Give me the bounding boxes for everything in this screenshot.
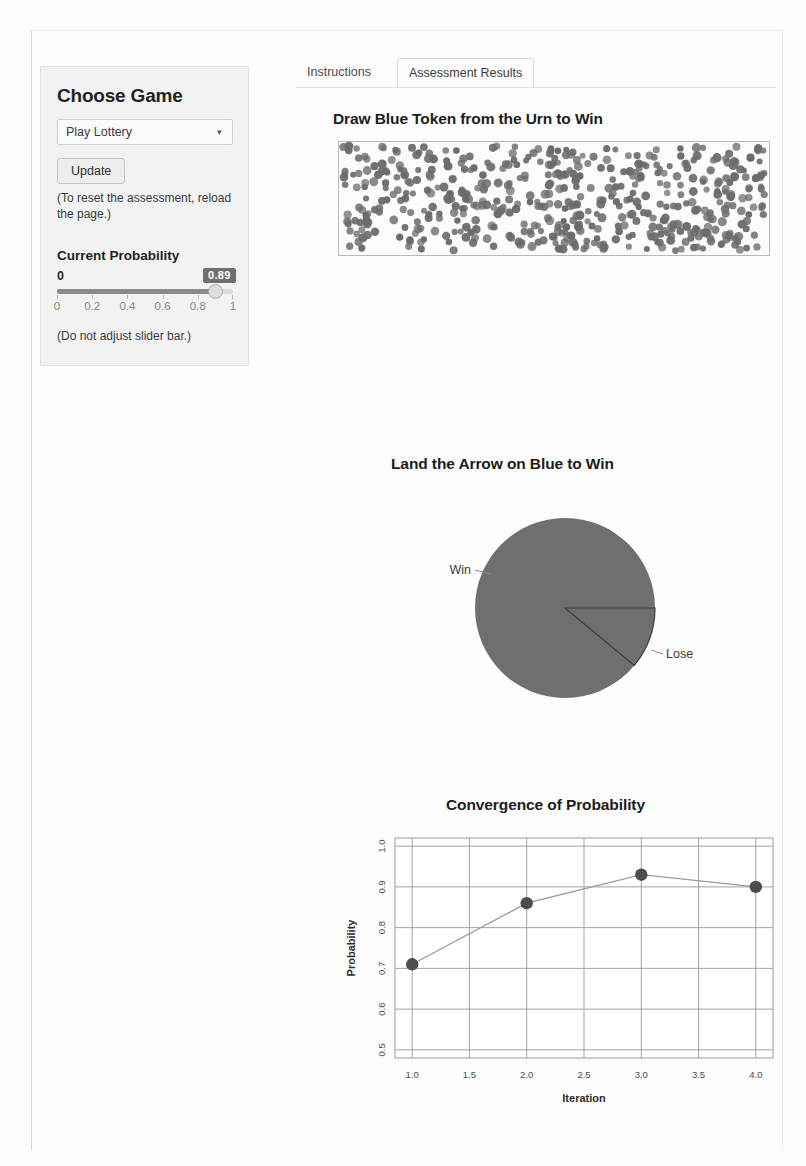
urn-token — [750, 203, 758, 211]
urn-token — [633, 198, 642, 207]
tab-bar: Instructions Assessment Results — [296, 58, 776, 88]
urn-token — [545, 181, 553, 189]
win-label: Win — [449, 563, 471, 577]
slider-note: (Do not adjust slider bar.) — [57, 329, 191, 343]
convergence-chart: 0.50.60.70.80.91.01.01.52.02.53.03.54.0I… — [268, 820, 788, 1120]
urn-token — [743, 245, 750, 252]
urn-token — [650, 214, 657, 221]
lose-leader-line — [651, 650, 663, 654]
urn-token — [753, 243, 760, 250]
urn-title: Draw Blue Token from the Urn to Win — [333, 110, 603, 128]
urn-token — [565, 198, 573, 206]
urn-token — [711, 226, 719, 234]
urn-token — [392, 147, 398, 153]
urn-token — [760, 211, 767, 218]
urn-token — [341, 171, 348, 178]
urn-token — [734, 232, 743, 241]
slider-track[interactable] — [57, 289, 233, 294]
urn-token — [371, 162, 379, 170]
urn-token — [746, 154, 754, 162]
urn-token — [512, 144, 518, 150]
urn-token — [757, 158, 763, 164]
urn-token — [561, 171, 567, 177]
game-select[interactable]: Play Lottery ▾ — [57, 119, 233, 145]
urn-token — [745, 184, 753, 192]
urn-token — [664, 190, 670, 196]
urn-token — [521, 221, 528, 228]
urn-token — [516, 240, 525, 249]
urn-token — [408, 144, 416, 152]
urn-token — [589, 223, 596, 230]
urn-token — [545, 216, 554, 225]
slider-tick-mark — [232, 295, 233, 299]
urn-token — [369, 177, 378, 186]
urn-token — [653, 162, 660, 169]
probability-slider[interactable]: 0 0.89 00.20.40.60.81 — [57, 269, 233, 311]
urn-token — [576, 220, 583, 227]
app-page: Choose Game Play Lottery ▾ Update (To re… — [0, 0, 806, 1166]
urn-token — [505, 195, 513, 203]
urn-token — [687, 229, 694, 236]
urn-token — [490, 243, 497, 250]
urn-token — [407, 236, 413, 242]
urn-token — [461, 166, 468, 173]
urn-token — [598, 213, 607, 222]
urn-token — [436, 215, 443, 222]
x-tick-label: 2.5 — [577, 1069, 590, 1080]
urn-token — [400, 206, 407, 213]
urn-token — [389, 216, 398, 225]
urn-token — [605, 184, 614, 193]
urn-token — [493, 209, 502, 218]
urn-token — [471, 234, 479, 242]
urn-token — [732, 143, 740, 151]
urn-token — [479, 171, 487, 179]
urn-token — [618, 183, 625, 190]
current-probability-label: Current Probability — [57, 248, 232, 263]
urn-token — [425, 214, 433, 222]
tab-underline — [296, 87, 776, 88]
urn-token — [459, 155, 467, 163]
urn-token — [494, 178, 503, 187]
urn-token — [535, 223, 541, 229]
urn-token — [363, 155, 370, 162]
data-point-marker — [635, 869, 647, 881]
urn-token — [555, 147, 562, 154]
urn-token — [464, 190, 470, 196]
urn-token — [471, 216, 480, 225]
urn-token — [468, 167, 474, 173]
spinner-title: Land the Arrow on Blue to Win — [391, 455, 614, 473]
slider-value-bubble: 0.89 — [203, 268, 236, 283]
urn-token — [613, 198, 620, 205]
urn-token — [363, 215, 370, 222]
urn-token — [603, 155, 612, 164]
tab-assessment-results[interactable]: Assessment Results — [397, 58, 534, 89]
urn-token — [724, 232, 732, 240]
urn-visualization — [338, 141, 770, 256]
slider-tick-mark — [127, 295, 128, 299]
urn-token — [678, 191, 685, 198]
urn-token — [541, 190, 550, 199]
page-title: Choose Game — [57, 85, 232, 107]
urn-token — [342, 182, 349, 189]
urn-token — [678, 246, 685, 253]
urn-token — [407, 209, 414, 216]
urn-token — [346, 227, 353, 234]
urn-token — [626, 244, 632, 250]
x-tick-label: 1.0 — [406, 1069, 419, 1080]
x-tick-label: 1.5 — [463, 1069, 476, 1080]
slider-tick-label: 1 — [230, 300, 236, 312]
urn-token — [594, 235, 600, 241]
urn-token — [537, 158, 544, 165]
urn-token — [689, 174, 698, 183]
urn-token — [410, 190, 416, 196]
urn-token — [554, 200, 562, 208]
urn-token — [700, 179, 706, 185]
y-axis-label: Probability — [345, 919, 357, 977]
urn-token — [672, 247, 679, 254]
urn-token — [473, 202, 482, 211]
urn-token — [453, 147, 460, 154]
tab-instructions[interactable]: Instructions — [296, 58, 382, 87]
urn-token — [653, 146, 660, 153]
update-button[interactable]: Update — [57, 158, 125, 184]
urn-token — [722, 155, 729, 162]
